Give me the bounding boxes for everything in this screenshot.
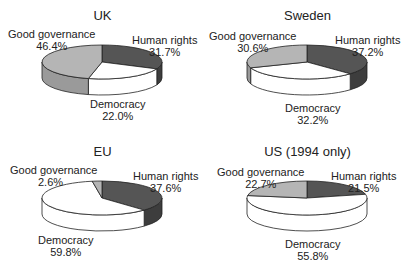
label-human-rights: Human rights31.7% bbox=[132, 34, 197, 58]
label-democracy: Democracy22.0% bbox=[90, 98, 146, 122]
label-democracy: Democracy32.2% bbox=[285, 102, 341, 126]
chart-uk: UK Good governance46.4% Human rights31.7… bbox=[0, 0, 205, 130]
label-good-governance: Good governance22.7% bbox=[217, 166, 304, 190]
label-human-rights: Human rights37.2% bbox=[335, 34, 400, 58]
chart-title: UK bbox=[0, 8, 205, 23]
label-democracy: Democracy55.8% bbox=[285, 238, 341, 262]
label-good-governance: Good governance46.4% bbox=[8, 28, 95, 52]
chart-sweden: Sweden Good governance30.6% Human rights… bbox=[205, 0, 410, 130]
chart-title: EU bbox=[0, 144, 205, 159]
label-good-governance: Good governance2.6% bbox=[10, 164, 97, 188]
chart-title: US (1994 only) bbox=[205, 144, 410, 159]
chart-title: Sweden bbox=[205, 8, 410, 23]
chart-eu: EU Good governance2.6% Human rights37.6%… bbox=[0, 136, 205, 266]
label-democracy: Democracy59.8% bbox=[38, 234, 94, 258]
label-human-rights: Human rights37.6% bbox=[133, 170, 198, 194]
label-human-rights: Human rights21.5% bbox=[331, 170, 396, 194]
label-good-governance: Good governance30.6% bbox=[209, 30, 296, 54]
chart-us: US (1994 only) Good governance22.7% Huma… bbox=[205, 136, 410, 266]
